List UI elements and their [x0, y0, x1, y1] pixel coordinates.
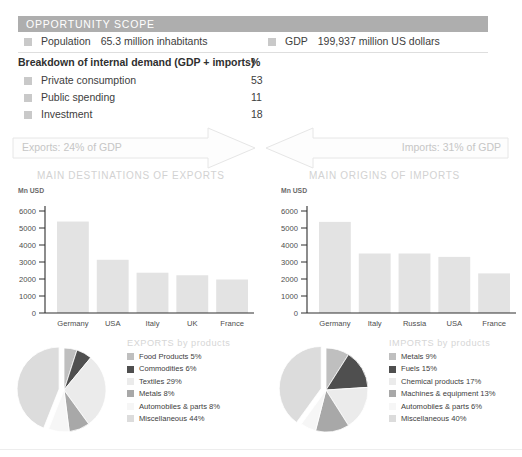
svg-text:5000: 5000 [281, 224, 298, 233]
svg-text:UK: UK [187, 319, 198, 328]
population-value: 65.3 million inhabitants [101, 35, 208, 47]
y-axis-ticks: 0100020003000400050006000 [281, 207, 307, 318]
legend-item: Miscellaneous 40% [389, 413, 496, 425]
breakdown-label: Private consumption [41, 74, 136, 86]
svg-text:USA: USA [446, 319, 463, 328]
legend-item: Food Products 5% [127, 351, 220, 363]
exports-pie-legend: Food Products 5%Commodities 6%Textiles 2… [127, 351, 220, 425]
breakdown-label: Investment [41, 108, 92, 120]
opportunity-scope-page: OPPORTUNITY SCOPE Population65.3 million… [0, 0, 522, 457]
legend-item: Metals 8% [127, 388, 220, 400]
svg-text:Italy: Italy [146, 319, 160, 328]
svg-text:Italy: Italy [368, 319, 382, 328]
imports-pie-chart [276, 340, 381, 440]
imports-pie-title: IMPORTS by products [389, 338, 490, 348]
imports-flow-arrow: Imports: 31% of GDP [264, 127, 509, 169]
square-bullet-icon [268, 38, 276, 46]
svg-text:France: France [482, 319, 506, 328]
svg-text:5000: 5000 [19, 224, 36, 233]
svg-text:2000: 2000 [281, 275, 298, 284]
exports-pie-title: EXPORTS by products [127, 338, 230, 348]
x-axis-labels: GermanyItalyRussiaUSAFrance [319, 319, 506, 328]
svg-text:6000: 6000 [19, 207, 36, 216]
breakdown-row: Public spending [24, 91, 115, 103]
imports-products-pie-block: IMPORTS by products Metals 9%Fuels 15%Ch… [276, 338, 520, 443]
legend-label: Chemical products 17% [401, 377, 481, 386]
legend-label: Miscellaneous 44% [139, 414, 204, 423]
exports-share-label: Exports: 24% of GDP [22, 141, 122, 153]
svg-text:4000: 4000 [19, 241, 36, 250]
legend-label: Miscellaneous 40% [401, 414, 466, 423]
svg-text:France: France [220, 319, 244, 328]
exports-pie-chart [14, 340, 119, 440]
svg-text:1000: 1000 [281, 292, 298, 301]
svg-text:USA: USA [105, 319, 122, 328]
legend-label: Metals 8% [139, 389, 174, 398]
breakdown-heading: Breakdown of internal demand (GDP + impo… [18, 56, 254, 68]
svg-text:Germany: Germany [57, 319, 88, 328]
legend-item: Miscellaneous 44% [127, 413, 220, 425]
imports-section-title: MAIN ORIGINS OF IMPORTS [309, 170, 460, 181]
legend-item: Chemical products 17% [389, 376, 496, 388]
legend-item: Machines & equipment 13% [389, 388, 496, 400]
breakdown-value: 11 [251, 91, 262, 103]
breakdown-value: 53 [251, 74, 263, 86]
gdp-value: 199,937 million US dollars [318, 35, 440, 47]
population-label: Population [41, 35, 91, 47]
svg-text:1000: 1000 [19, 292, 36, 301]
page-title: OPPORTUNITY SCOPE [26, 18, 155, 30]
legend-swatch-icon [127, 390, 134, 397]
opportunity-scope-header: OPPORTUNITY SCOPE [18, 16, 488, 32]
legend-item: Automobiles & parts 6% [389, 401, 496, 413]
breakdown-label: Public spending [41, 91, 115, 103]
legend-swatch-icon [389, 390, 396, 397]
legend-swatch-icon [127, 378, 134, 385]
exports-flow-arrow: Exports: 24% of GDP [12, 127, 257, 169]
legend-swatch-icon [127, 353, 134, 360]
key-fact-gdp: GDP199,937 million US dollars [268, 35, 440, 47]
gdp-label: GDP [285, 35, 308, 47]
svg-text:3000: 3000 [19, 258, 36, 267]
exports-bar-chart-svg: 0100020003000400050006000 GermanyUSAItal… [8, 196, 258, 331]
legend-label: Metals 9% [401, 352, 436, 361]
x-axis-labels: GermanyUSAItalyUKFrance [57, 319, 244, 328]
imports-bar-chart-svg: 0100020003000400050006000 GermanyItalyRu… [270, 196, 520, 331]
legend-item: Automobiles & parts 8% [127, 401, 220, 413]
breakdown-row: Private consumption [24, 74, 136, 86]
svg-text:0: 0 [294, 309, 298, 318]
exports-section-title: MAIN DESTINATIONS OF EXPORTS [37, 170, 225, 181]
legend-swatch-icon [389, 415, 396, 422]
svg-text:2000: 2000 [19, 275, 36, 284]
svg-text:0: 0 [32, 309, 36, 318]
square-bullet-icon [24, 111, 32, 119]
legend-label: Automobiles & parts 6% [401, 402, 482, 411]
legend-label: Automobiles & parts 8% [139, 402, 220, 411]
legend-item: Commodities 6% [127, 363, 220, 375]
svg-text:3000: 3000 [281, 258, 298, 267]
imports-axis-unit-label: Mn USD [281, 187, 307, 194]
svg-text:6000: 6000 [281, 207, 298, 216]
legend-label: Commodities 6% [139, 364, 196, 373]
legend-label: Fuels 15% [401, 364, 437, 373]
exports-axis-unit-label: Mn USD [18, 187, 44, 194]
legend-swatch-icon [389, 403, 396, 410]
imports-bar-chart: 0100020003000400050006000 GermanyItalyRu… [270, 196, 520, 331]
legend-label: Textiles 29% [139, 377, 182, 386]
legend-item: Metals 9% [389, 351, 496, 363]
imports-share-label: Imports: 31% of GDP [402, 141, 501, 153]
bars [57, 222, 248, 313]
legend-label: Food Products 5% [139, 352, 201, 361]
legend-swatch-icon [127, 415, 134, 422]
breakdown-row: Investment [24, 108, 92, 120]
breakdown-value: 18 [251, 108, 263, 120]
svg-text:4000: 4000 [281, 241, 298, 250]
exports-products-pie-block: EXPORTS by products Food Products 5%Comm… [14, 338, 258, 443]
square-bullet-icon [24, 94, 32, 102]
legend-label: Machines & equipment 13% [401, 389, 496, 398]
imports-pie-legend: Metals 9%Fuels 15%Chemical products 17%M… [389, 351, 496, 425]
legend-swatch-icon [389, 366, 396, 373]
legend-swatch-icon [127, 366, 134, 373]
legend-swatch-icon [127, 403, 134, 410]
legend-swatch-icon [389, 353, 396, 360]
key-fact-population: Population65.3 million inhabitants [24, 35, 207, 47]
